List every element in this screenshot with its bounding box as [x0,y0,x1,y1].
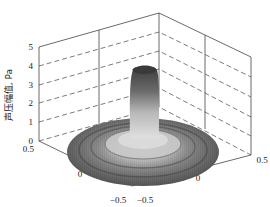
svg-text:0.5: 0.5 [256,155,268,165]
svg-text:5: 5 [29,42,34,52]
z-axis-label: 声压幅值, Pa [3,69,14,121]
svg-text:2: 2 [29,98,34,108]
svg-text:0.5: 0.5 [23,144,35,154]
svg-text:0: 0 [196,173,201,183]
surface-plot: 0 1 2 3 4 5 0.5 0 −0.5 −0.5 0 0.5 声压幅值, … [0,0,270,207]
svg-text:3: 3 [29,80,34,90]
svg-text:−0.5: −0.5 [110,195,127,205]
svg-text:1: 1 [29,117,34,127]
svg-text:4: 4 [29,61,34,71]
svg-text:0: 0 [78,169,83,179]
svg-text:−0.5: −0.5 [137,195,154,205]
surface-peak [130,66,159,139]
z-axis-ticks: 0 1 2 3 4 5 [29,42,34,146]
